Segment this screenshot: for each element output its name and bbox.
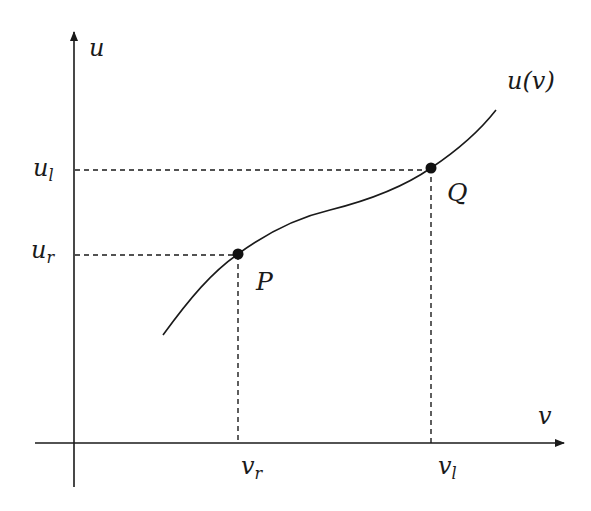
- u-axis-label: u: [89, 34, 104, 62]
- ul-tick-label: ul: [33, 154, 54, 185]
- vl-tick-label: vl: [438, 452, 457, 483]
- point-q-label: Q: [447, 178, 468, 207]
- riemann-curve-diagram: u v P Q u(v) ul ur vr vl: [0, 0, 591, 511]
- u-of-v-curve: [163, 110, 496, 335]
- v-axis-label: v: [538, 402, 552, 430]
- vr-tick-label: vr: [241, 452, 264, 483]
- point-p-label: P: [255, 267, 274, 296]
- ur-tick-label: ur: [31, 236, 55, 267]
- point-p: [233, 249, 244, 260]
- curve-label: u(v): [507, 67, 555, 95]
- point-q: [426, 163, 437, 174]
